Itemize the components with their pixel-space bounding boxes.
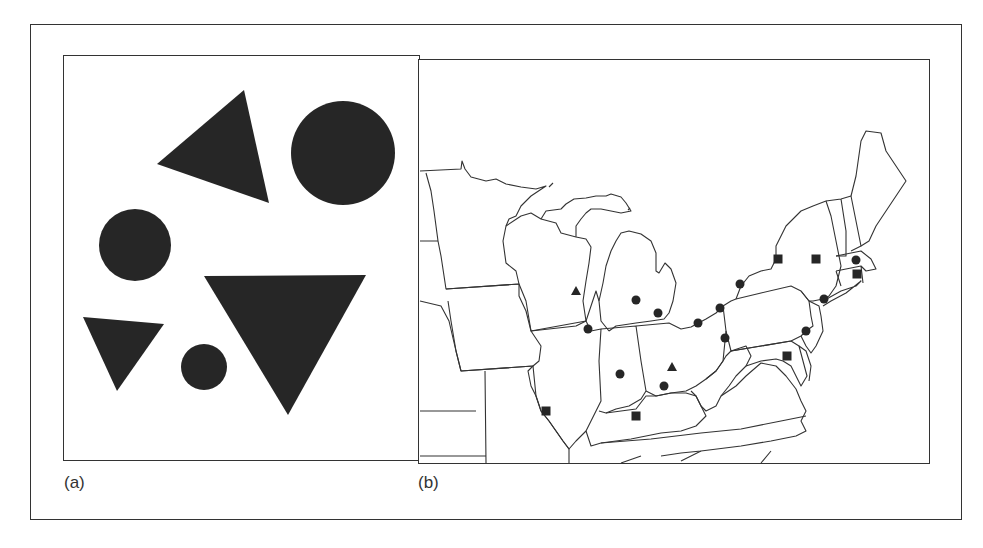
shapes-canvas	[64, 56, 421, 462]
panel-a-label: (a)	[64, 473, 85, 493]
circle-marker	[721, 334, 730, 343]
circle-marker	[716, 304, 725, 313]
map-canvas	[419, 60, 931, 465]
circle-marker	[616, 370, 625, 379]
circle-marker	[632, 296, 641, 305]
triangle-marker	[667, 362, 677, 371]
square-marker	[632, 412, 641, 421]
circle-marker	[654, 309, 663, 318]
circle-marker	[852, 256, 861, 265]
panel-b-map	[418, 59, 930, 464]
state-boundaries	[420, 131, 906, 463]
circle-marker	[660, 382, 669, 391]
square-marker	[783, 352, 792, 361]
triangle-shape	[157, 90, 269, 203]
circle-marker	[736, 280, 745, 289]
circle-shape	[181, 344, 227, 390]
panel-b-label: (b)	[418, 473, 439, 493]
square-marker	[853, 270, 862, 279]
panel-a-shapes	[63, 55, 420, 461]
map-symbols	[542, 255, 862, 421]
triangle-marker	[571, 286, 581, 295]
square-marker	[542, 407, 551, 416]
circle-shape	[291, 101, 395, 205]
circle-marker	[584, 325, 593, 334]
square-marker	[812, 255, 821, 264]
circle-marker	[820, 295, 829, 304]
triangle-shape	[204, 275, 366, 415]
square-marker	[774, 255, 783, 264]
circle-marker	[802, 327, 811, 336]
triangle-shape	[83, 317, 164, 391]
circle-marker	[694, 319, 703, 328]
circle-shape	[99, 209, 171, 281]
